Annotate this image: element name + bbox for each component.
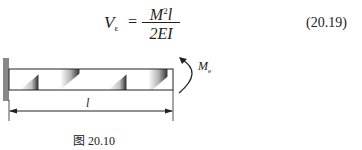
moment-label: Me [198,59,211,75]
cantilever-diagram [0,48,362,150]
numerator-tail: l [168,6,172,23]
denominator: 2EI [142,25,180,43]
numerator-base: M [150,6,163,23]
numerator: M2l [142,1,180,21]
equation-number: (20.19) [306,15,347,31]
length-dimension [9,90,173,121]
fixed-wall [3,58,9,101]
figure-caption: 图 20.10 [73,131,115,149]
lhs-subscript: ε [114,23,118,33]
lhs-symbol: V [104,13,114,32]
length-label: l [86,96,89,111]
moment-symbol: M [198,59,208,73]
arrow-right-icon [165,109,173,114]
equals-sign: = [128,13,137,31]
arrow-left-icon [9,109,17,114]
moment-subscript: e [208,67,211,75]
beam [9,69,173,90]
fraction: M2l 2EI [142,1,180,43]
equation-block: Vε = M2l 2EI (20.19) [0,0,362,48]
moment-arrow-icon [179,57,192,93]
equation-lhs: Vε [104,13,118,33]
